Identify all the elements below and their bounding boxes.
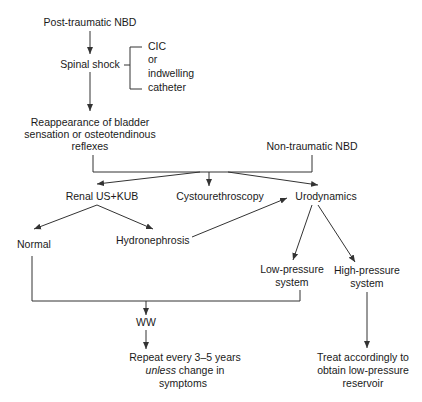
node-cic-line2: or <box>148 53 158 65</box>
node-urodynamics: Urodynamics <box>295 190 356 202</box>
node-high-pressure-line2: system <box>350 277 384 289</box>
arrow-to-urodynamics <box>228 172 318 185</box>
node-reappearance-line2: sensation or osteotendinous <box>24 128 155 140</box>
node-treat-line1: Treat accordingly to <box>317 351 409 363</box>
arrow-to-renal-us <box>97 172 200 184</box>
merge-connector-top <box>93 155 312 172</box>
node-post-traumatic-nbd: Post-traumatic NBD <box>44 16 137 28</box>
arrow-hydronephrosis-to-urodynamics <box>192 198 287 237</box>
node-treat-line2: obtain low-pressure <box>317 364 409 376</box>
node-cic-line3: indwelling <box>148 67 194 79</box>
arrow-urodynamics-to-low-pressure <box>293 205 312 260</box>
node-cic-line4: catheter <box>148 81 186 93</box>
node-treat-line3: reservoir <box>343 377 384 389</box>
node-high-pressure-line1: High-pressure <box>334 264 400 276</box>
node-spinal-shock: Spinal shock <box>60 58 120 70</box>
node-repeat-line1: Repeat every 3–5 years <box>129 351 240 363</box>
node-reappearance-line3: reflexes <box>72 140 109 152</box>
node-ww: WW <box>136 316 156 328</box>
arrow-urodynamics-to-high-pressure <box>318 205 355 262</box>
node-renal-us-kub: Renal US+KUB <box>66 190 139 202</box>
node-cystourethroscopy: Cystourethroscopy <box>176 190 264 202</box>
nbd-flowchart: Post-traumatic NBD Spinal shock CIC or i… <box>0 0 422 402</box>
bracket-cic <box>130 47 142 89</box>
node-low-pressure-line1: Low-pressure <box>260 263 324 275</box>
arrow-renal-to-normal <box>34 205 97 229</box>
node-repeat-line3: symptoms <box>159 377 207 389</box>
node-cic-line1: CIC <box>148 40 167 52</box>
arrow-renal-to-hydronephrosis <box>97 205 153 229</box>
node-repeat-unless: unless <box>146 364 177 376</box>
node-repeat-change-in: change in <box>176 364 225 376</box>
node-reappearance-line1: Reappearance of bladder <box>31 116 150 128</box>
node-repeat-line2: unless change in <box>146 364 225 376</box>
node-non-traumatic-nbd: Non-traumatic NBD <box>266 140 357 152</box>
node-normal: Normal <box>17 238 51 250</box>
node-hydronephrosis: Hydronephrosis <box>116 234 190 246</box>
node-low-pressure-line2: system <box>275 276 309 288</box>
